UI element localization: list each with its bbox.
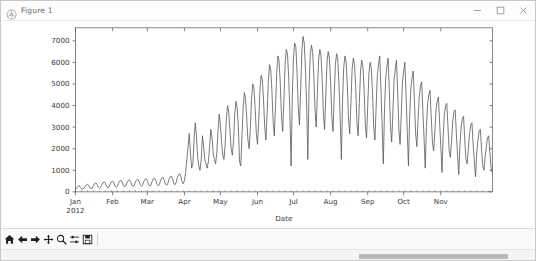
back-arrow-icon[interactable] (16, 231, 29, 247)
horizontal-scrollbar-track[interactable] (1, 252, 535, 257)
y-tick-label: 1000 (51, 166, 70, 175)
horizontal-scrollbar-thumb[interactable] (359, 254, 509, 259)
x-tick-label: Sep (361, 197, 375, 206)
x-tick-label: Jul (288, 197, 298, 206)
x-tick-label: Jan (69, 197, 81, 206)
save-floppy-icon[interactable] (81, 231, 94, 247)
home-icon[interactable] (3, 231, 16, 247)
x-tick-label: Nov (434, 197, 448, 206)
bottom-status-strip (1, 249, 535, 260)
x-axis-label: Date (275, 214, 292, 223)
time-series-chart: 01000200030004000500060007000JanFebMarAp… (2, 21, 534, 228)
y-tick-label: 7000 (51, 36, 70, 45)
window-controls (466, 1, 535, 20)
figure-window: Figure 1 01000200030004000500060 (0, 0, 536, 261)
matplotlib-icon (6, 5, 17, 16)
x-tick-label: Oct (397, 197, 410, 206)
y-tick-label: 2000 (51, 144, 70, 153)
title-bar: Figure 1 (1, 1, 535, 21)
y-tick-label: 3000 (51, 123, 70, 132)
x-tick-label: Feb (106, 197, 119, 206)
forward-arrow-icon[interactable] (29, 231, 42, 247)
x-axis-year-label: 2012 (66, 206, 84, 215)
x-tick-label: Aug (324, 197, 338, 206)
figure-canvas-area[interactable]: 01000200030004000500060007000JanFebMarAp… (2, 21, 534, 228)
maximize-icon[interactable] (489, 1, 512, 20)
x-tick-label: Mar (141, 197, 155, 206)
window-title: Figure 1 (21, 6, 53, 15)
close-icon[interactable] (512, 1, 535, 20)
subplot-config-icon[interactable] (68, 231, 81, 247)
x-tick-label: Apr (178, 197, 190, 206)
minimize-icon[interactable] (466, 1, 489, 20)
toolbar-divider (97, 233, 98, 246)
pan-move-icon[interactable] (42, 231, 55, 247)
y-tick-label: 6000 (51, 58, 70, 67)
y-tick-label: 4000 (51, 101, 70, 110)
x-tick-label: Jun (251, 197, 263, 206)
y-tick-label: 5000 (51, 80, 70, 89)
matplotlib-nav-toolbar (1, 228, 535, 249)
y-tick-label: 0 (65, 187, 70, 196)
zoom-magnifier-icon[interactable] (55, 231, 68, 247)
x-tick-label: May (213, 197, 228, 206)
